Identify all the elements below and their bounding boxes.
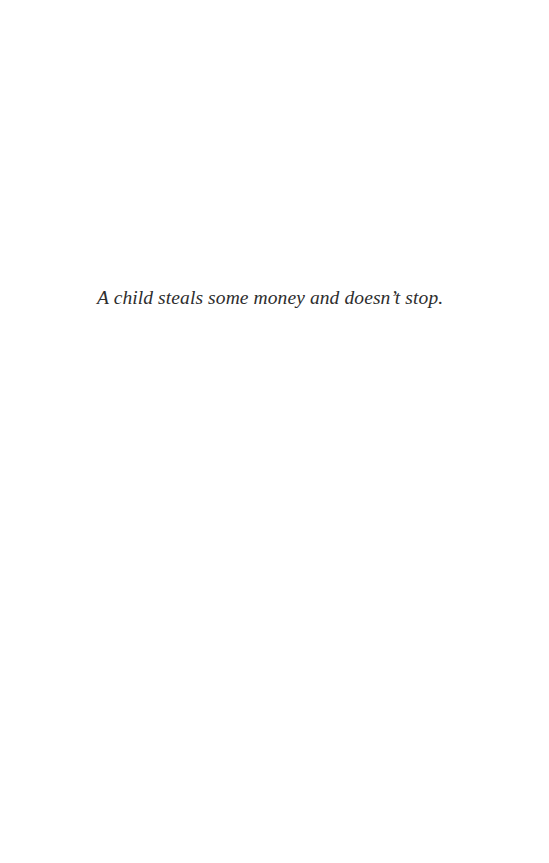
book-page: A child steals some money and doesn’t st… bbox=[0, 0, 549, 863]
epigraph-text: A child steals some money and doesn’t st… bbox=[97, 286, 443, 310]
